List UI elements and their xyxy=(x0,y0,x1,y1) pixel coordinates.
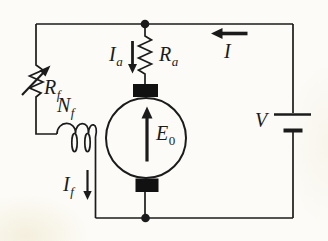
armature-resistor-zigzag xyxy=(139,24,152,84)
coil-loop-2 xyxy=(85,133,90,151)
label-supply-voltage: V xyxy=(255,110,268,130)
label-armature-resistor-main: R xyxy=(159,43,171,65)
label-armature-resistor-sub: a xyxy=(172,54,179,69)
label-line-current-main: I xyxy=(224,40,231,62)
label-motor-emf-main: E xyxy=(156,122,168,144)
label-field-current-sub: f xyxy=(70,184,74,199)
field-current-arrow-head xyxy=(83,191,91,200)
brush-block-bottom xyxy=(136,179,159,193)
emf-arrow-head xyxy=(142,107,153,119)
coil-loop-1 xyxy=(72,133,77,151)
label-supply-voltage-main: V xyxy=(255,109,267,131)
junction-dot-bottom xyxy=(141,214,150,223)
label-armature-current-main: I xyxy=(109,43,116,65)
label-field-winding-main: N xyxy=(57,94,70,116)
circuit-wires-svg xyxy=(0,0,328,241)
brush-block-top xyxy=(133,84,158,97)
armature-current-arrow-head xyxy=(128,64,137,74)
label-motor-emf: E0 xyxy=(156,123,175,143)
label-armature-current: Ia xyxy=(109,44,123,64)
line-current-arrow-head xyxy=(211,28,223,39)
label-armature-current-sub: a xyxy=(116,54,123,69)
junction-dot-top xyxy=(141,20,150,29)
label-field-winding-sub: f xyxy=(71,105,75,120)
label-armature-resistor: Ra xyxy=(159,44,178,64)
label-field-winding: Nf xyxy=(57,95,74,115)
label-line-current: I xyxy=(224,41,231,61)
circuit-diagram: Ia Ra I Rf Nf If E0 V xyxy=(0,0,328,241)
label-motor-emf-sub: 0 xyxy=(169,133,176,148)
label-field-current: If xyxy=(63,174,74,194)
label-field-current-main: I xyxy=(63,173,70,195)
label-field-resistor-main: R xyxy=(44,76,56,98)
